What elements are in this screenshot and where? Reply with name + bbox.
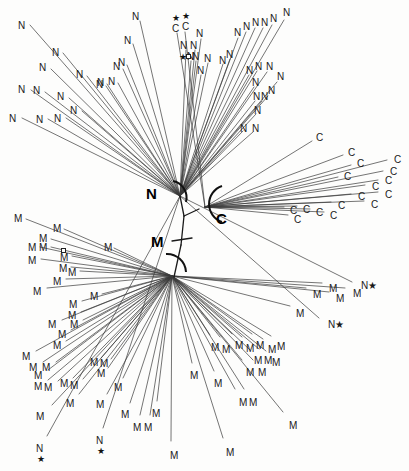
tip-label: M [36,412,44,422]
tip-label: C [316,208,323,218]
tip-label: N [96,436,103,446]
tree-branch [180,132,253,196]
tip-label: N [226,50,233,60]
tip-label: M [68,268,76,278]
tip-label: M [214,379,222,389]
tip-label: M [258,368,266,378]
tip-label: C [357,159,364,169]
tip-label: M [268,345,276,355]
tip-label: M [34,382,42,392]
tip-label: C [358,192,365,202]
tip-label: C [371,200,378,210]
tip-label: C [294,215,301,225]
tip-label: N [197,66,204,76]
tip-label: N [192,52,199,62]
tip-label: C [316,133,323,143]
tip-label: M [59,264,67,274]
tip-label: C [172,24,179,34]
tip-label: M [70,320,78,330]
tree-branch [43,276,172,362]
tip-label: N [96,80,103,90]
tree-branch [205,155,343,207]
tree-branch [205,180,378,207]
tip-label: N [36,115,43,125]
tip-label: M [235,341,243,351]
tip-label: C [330,211,337,221]
tip-label: N [266,62,273,72]
tip-label: N [108,77,115,87]
tip-label: M [42,363,50,373]
tip-label: M [246,344,254,354]
tip-label: M [104,243,112,253]
tip-label: N [253,92,260,102]
tree-branch [172,276,329,292]
tip-label: M [69,300,77,310]
clade-label-n: N [146,186,157,201]
tip-label: N [196,29,203,39]
tip-label: C [182,22,189,32]
tip-label: N [132,12,139,22]
tree-branch [172,276,242,360]
tree-branch [172,276,235,389]
tree-branch [101,276,172,358]
square-marker-icon [186,54,191,59]
tip-label: M [277,342,285,352]
tip-label: N [18,21,25,31]
tip-label: M [114,383,122,393]
tip-label: C [338,201,345,211]
tree-branch [31,90,180,196]
tip-label: M [96,400,104,410]
tip-label: M [66,399,74,409]
tree-branch [118,83,180,196]
tree-branch [150,276,172,415]
tip-label: M [254,356,262,366]
backbone-internal1-to-internal2 [181,216,184,245]
tip-label: C [372,182,379,192]
clade-label-c: C [216,211,227,226]
tip-label: N [252,124,259,134]
tip-label: C [394,155,401,165]
tip-label: N★ [328,320,344,330]
tip-label: C [344,172,351,182]
tip-label: N [268,86,275,96]
tip-label: M [296,309,304,319]
tree-branch [172,276,345,288]
tip-label: M [53,277,61,287]
tip-label: M [22,352,30,362]
tip-label: N [190,41,197,51]
tree-branch [180,101,255,196]
tip-label: N [252,78,259,88]
tree-branch [172,276,210,335]
tip-label: M [28,243,36,253]
tip-label: N [255,62,262,72]
tip-label: M [256,341,264,351]
star-marker-icon: ★ [37,455,45,464]
tip-label: M [226,448,234,458]
clade-label-m: M [151,234,164,249]
tip-label: M [70,381,78,391]
tip-label: M [239,398,247,408]
tip-label: N [39,63,46,73]
tip-label: M [90,292,98,302]
tip-label: N [270,14,277,24]
tip-label: M [211,343,219,353]
tree-branch [172,276,266,351]
tree-branch [123,69,180,196]
tip-label: N [204,54,211,64]
tree-branches [0,0,409,471]
tip-label: M [33,287,41,297]
square-marker-icon [61,248,66,253]
tip-label: M [170,451,178,461]
tip-label: M [289,421,297,431]
tree-branch [171,276,172,441]
tip-label: M [58,330,66,340]
tree-branch [66,118,180,196]
backbone-internal1-to-c [184,209,199,216]
tip-label: N [124,36,131,46]
tip-label: M [34,371,42,381]
tip-label: N [70,106,77,116]
tip-label: N [118,58,125,68]
tip-label: N [180,41,187,51]
tip-label: M [14,214,22,224]
tip-label: M [272,358,280,368]
